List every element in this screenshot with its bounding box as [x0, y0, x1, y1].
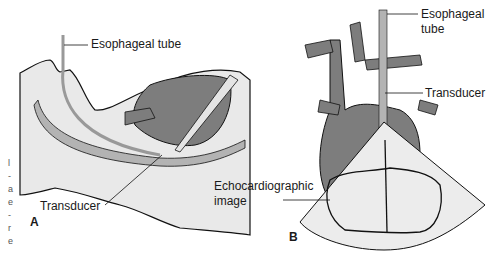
margin-fragment: a [8, 183, 13, 196]
margin-fragment: e [8, 196, 13, 209]
label-esophageal-tube-b-line1: Esophageal [421, 8, 484, 21]
margin-fragment: r [8, 222, 11, 235]
tee-illustration [0, 0, 498, 267]
label-esophageal-tube-b-line2: tube [421, 23, 444, 36]
margin-fragment: e [8, 235, 13, 248]
margin-fragment: - [8, 170, 11, 183]
label-esophageal-tube-a: Esophageal tube [91, 38, 181, 51]
label-transducer-a: Transducer [40, 200, 100, 213]
margin-fragment: l [8, 157, 10, 170]
vessels-b [305, 22, 438, 115]
panel-letter-b: B [289, 230, 298, 244]
esophageal-tube-b [379, 10, 387, 130]
margin-fragment: - [8, 209, 11, 222]
label-transducer-b: Transducer [425, 87, 485, 100]
panel-letter-a: A [30, 215, 39, 229]
label-echo-line1: Echocardiographic [214, 180, 313, 193]
label-echo-line2: image [214, 195, 247, 208]
